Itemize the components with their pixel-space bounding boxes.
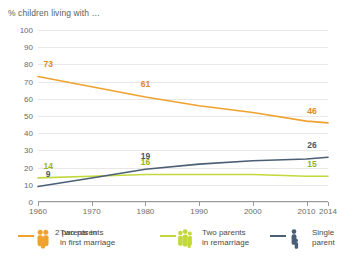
legend-label-overlay: 2 parents in [55, 228, 97, 238]
series-line [38, 157, 328, 186]
y-axis-tick-label: 50 [24, 112, 33, 121]
y-axis-tick-label: 0 [29, 198, 33, 207]
data-point-label: 15 [307, 159, 316, 169]
legend-color-swatch [160, 235, 176, 237]
x-axis-tick-label: 1990 [190, 207, 208, 216]
y-axis-tick-label: 80 [24, 60, 33, 69]
plot-area: 0102030405060708090100 19601970198019902… [0, 26, 334, 212]
series-line [38, 174, 328, 177]
gridline [38, 202, 328, 203]
x-axis-tick-mark [92, 202, 93, 206]
y-axis-tick-label: 100 [20, 26, 33, 35]
data-point-label: 26 [307, 140, 316, 150]
data-point-label: 61 [141, 79, 150, 89]
x-axis-tick-label: 1970 [83, 207, 101, 216]
y-axis-tick-label: 60 [24, 94, 33, 103]
series-line [38, 76, 328, 122]
data-point-label: 19 [141, 151, 150, 161]
x-axis-tick-mark [38, 202, 39, 206]
family-single-parent-icon [287, 228, 303, 250]
legend-item[interactable]: 2 parents inTwo parentsin first marriage [18, 228, 115, 250]
legend-label-line1: Two parents [202, 228, 249, 238]
data-point-label: 46 [307, 106, 316, 116]
x-axis-tick-label: 1960 [29, 207, 47, 216]
x-axis-tick-label: 1980 [137, 207, 155, 216]
legend-label: 2 parents inTwo parentsin first marriage [55, 228, 115, 247]
legend-label: Two parentsin remarriage [197, 228, 249, 247]
x-axis-tick-mark [307, 202, 308, 206]
series-lines [38, 30, 328, 202]
x-axis-tick-label: 2010 [298, 207, 316, 216]
data-point-label: 73 [43, 59, 52, 69]
y-axis-tick-label: 10 [24, 180, 33, 189]
x-axis-tick-mark [253, 202, 254, 206]
x-axis-tick-mark [145, 202, 146, 206]
legend-item[interactable]: Two parentsin remarriage [160, 228, 249, 250]
legend-label: Singleparent [307, 228, 335, 247]
x-axis-tick-mark [199, 202, 200, 206]
data-point-label: 9 [46, 169, 51, 179]
family-remarriage-icon [177, 228, 193, 250]
y-axis-tick-label: 30 [24, 146, 33, 155]
y-axis-tick-label: 70 [24, 77, 33, 86]
x-axis-tick-mark [328, 202, 329, 206]
legend-label-main: Two parentsin remarriage [197, 228, 249, 247]
legend-item[interactable]: Singleparent [270, 228, 335, 250]
chart-title: % children living with … [8, 8, 100, 18]
plot-canvas: 0102030405060708090100 19601970198019902… [38, 30, 328, 202]
legend-color-swatch [270, 235, 286, 237]
y-axis-tick-label: 20 [24, 163, 33, 172]
chart-legend: 2 parents inTwo parentsin first marriage… [0, 226, 334, 270]
y-axis-tick-label: 90 [24, 43, 33, 52]
legend-color-swatch [18, 235, 34, 237]
legend-label-line2: parent [312, 238, 335, 248]
legend-label-main: Singleparent [307, 228, 335, 247]
legend-label-line2: in first marriage [60, 238, 115, 248]
x-axis-tick-label: 2014 [319, 207, 337, 216]
legend-label-line1: Single [312, 228, 335, 238]
y-axis-tick-label: 40 [24, 129, 33, 138]
x-axis-tick-label: 2000 [244, 207, 262, 216]
legend-label-line2: in remarriage [202, 238, 249, 248]
family-two-parents-icon [35, 228, 51, 250]
